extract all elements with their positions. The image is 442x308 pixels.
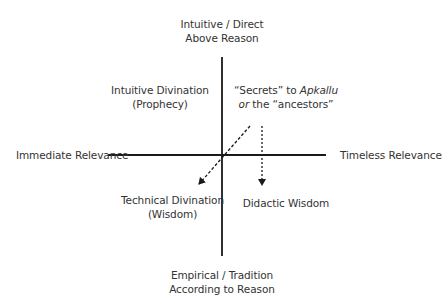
top-label-line1: Intuitive / Direct — [172, 17, 272, 31]
upper-right-line1-text: “Secrets” to — [234, 84, 300, 96]
upper-right-line2: or the “ancestors” — [226, 97, 346, 111]
top-label-line2: Above Reason — [172, 31, 272, 45]
lower-left-line2: (Wisdom) — [120, 207, 225, 221]
quadrant-upper-left: Intuitive Divination (Prophecy) — [100, 83, 220, 111]
bottom-axis-label: Empirical / Tradition According to Reaso… — [162, 268, 282, 296]
upper-left-line2: (Prophecy) — [100, 97, 220, 111]
lower-right-line1: Didactic Wisdom — [236, 196, 336, 210]
right-label-text: Timeless Relevance — [340, 149, 442, 161]
quadrant-lower-left: Technical Divination (Wisdom) — [120, 193, 225, 221]
bottom-label-line2: According to Reason — [162, 282, 282, 296]
upper-left-line1: Intuitive Divination — [100, 83, 220, 97]
quadrant-upper-right: “Secrets” to Apkallu or the “ancestors” — [226, 83, 346, 111]
left-label-text: Immediate Relevance — [16, 149, 128, 161]
or-italic: or — [239, 98, 250, 110]
upper-right-line2-text: the “ancestors” — [249, 98, 333, 110]
left-axis-label: Immediate Relevance — [16, 148, 128, 162]
right-axis-label: Timeless Relevance — [340, 148, 442, 162]
quadrant-lower-right: Didactic Wisdom — [236, 196, 336, 210]
top-axis-label: Intuitive / Direct Above Reason — [172, 17, 272, 45]
bottom-label-line1: Empirical / Tradition — [162, 268, 282, 282]
upper-right-line1: “Secrets” to Apkallu — [226, 83, 346, 97]
lower-left-line1: Technical Divination — [120, 193, 225, 207]
apkallu-italic: Apkallu — [300, 84, 338, 96]
